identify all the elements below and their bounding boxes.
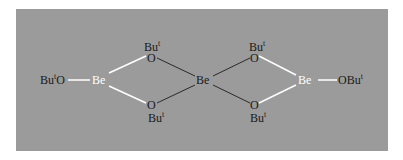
bond-o-tl-be-center	[157, 58, 195, 76]
label-right-terminal: OBut	[338, 72, 364, 87]
label-o-br: O	[250, 98, 259, 112]
label-o-tl: O	[147, 51, 156, 65]
bond-be-left-o-tl	[109, 56, 146, 73]
bond-be-center-o-br	[213, 85, 250, 103]
label-bu-bl: But	[148, 110, 165, 125]
bond-o-tr-be-right	[259, 56, 296, 75]
bond-o-br-be-right	[259, 85, 296, 103]
label-be-center: Be	[196, 73, 209, 87]
bond-be-left-o-bl	[109, 86, 146, 103]
label-be-right: Be	[298, 73, 311, 87]
beryllium-alkoxide-structure: ButO Be Be Be OBut But O O But But O O B…	[0, 0, 403, 160]
label-o-bl: O	[147, 98, 156, 112]
bond-be-center-o-tr	[213, 58, 250, 76]
label-o-tr: O	[250, 51, 259, 65]
label-be-left: Be	[92, 73, 105, 87]
label-left-terminal: ButO	[40, 72, 65, 87]
label-bu-br: But	[250, 110, 267, 125]
bond-o-bl-be-center	[157, 85, 195, 103]
